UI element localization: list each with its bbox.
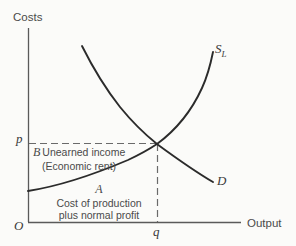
x-axis-title: Output [247,217,282,230]
region-a-tag: A [43,183,155,197]
region-a-line1: Cost of production [43,197,155,209]
supply-curve-label-subscript: L [222,49,227,59]
origin-label: O [14,219,23,234]
price-tick-label: p [16,132,23,147]
region-a-annotation: ACost of productionplus normal profit [43,183,155,221]
region-b-line1: Unearned income [42,146,125,158]
demand-curve-label: D [217,174,226,189]
region-b-line2: (Economic rent) [42,160,125,172]
region-a-line2: plus normal profit [43,209,155,221]
economics-supply-demand-figure: Costs Output O p q SL D BUnearned income… [0,0,296,246]
quantity-tick-label: q [153,225,160,240]
region-b-annotation: BUnearned income(Economic rent) [33,146,125,172]
region-b-tag: B [33,145,40,159]
y-axis-title: Costs [13,11,42,24]
supply-curve-label: SL [215,42,227,59]
